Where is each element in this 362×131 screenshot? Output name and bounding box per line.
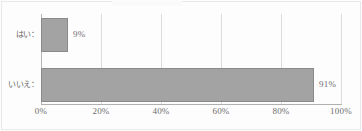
x-tick-label-40%: 40% — [152, 106, 169, 116]
x-axis-line — [41, 104, 342, 105]
category-label-yes: はい： — [16, 28, 39, 39]
category-label-no: いいえ： — [8, 78, 39, 89]
x-tick-label-20%: 20% — [92, 106, 109, 116]
data-label-yes: 9% — [73, 29, 85, 39]
x-tick-label-60%: 60% — [212, 106, 229, 116]
bar-no — [41, 68, 314, 102]
scan-artifact — [112, 1, 182, 6]
plot-area: 9% 91% — [41, 14, 341, 104]
x-axis-tick-labels: 0%20%40%60%80%100% — [41, 106, 341, 120]
category-axis: はい： いいえ： — [0, 14, 39, 104]
horizontal-bar-chart: はい： いいえ： 9% 91% 0%20%40%60%80%100% — [0, 0, 362, 131]
bar-yes — [41, 18, 68, 52]
x-tick-label-80%: 80% — [272, 106, 289, 116]
x-tick-label-100%: 100% — [330, 106, 352, 116]
x-tick-label-0%: 0% — [35, 106, 47, 116]
gridline-100 — [341, 14, 342, 104]
data-label-no: 91% — [319, 79, 336, 89]
